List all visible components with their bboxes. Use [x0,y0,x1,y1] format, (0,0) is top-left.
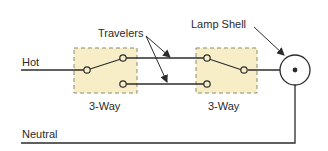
neutral-label: Neutral [22,128,57,140]
terminal-right-upper [204,55,210,61]
terminal-left-common [84,67,90,73]
neutral-wire [21,85,295,143]
terminal-right-lower [204,81,210,87]
wiring-diagram: Hot Travelers Lamp Shell 3-Way 3-Way Neu… [0,0,328,151]
lamp-shell-arrow [254,27,284,55]
switch-left-label: 3-Way [89,100,121,112]
terminal-right-common [241,67,247,73]
terminal-left-upper [120,55,126,61]
lamp-shell-label: Lamp Shell [191,18,246,30]
hot-label: Hot [22,56,39,68]
travelers-arrow-lower [146,36,167,82]
travelers-arrow-upper [146,36,170,57]
lamp-center-contact [293,68,298,73]
terminal-left-lower [120,81,126,87]
travelers-label: Travelers [98,27,144,39]
switch-right-label: 3-Way [208,100,240,112]
